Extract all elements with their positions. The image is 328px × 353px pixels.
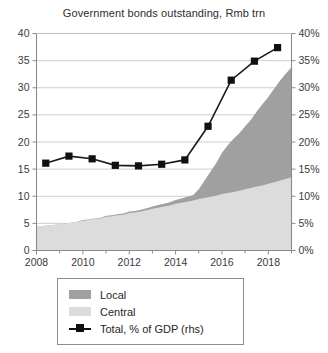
y-axis-tick-label: 10 xyxy=(18,190,30,202)
y2-axis-tick-label: 0% xyxy=(299,244,314,256)
x-axis-tick-label: 2010 xyxy=(71,256,95,268)
y-axis-tick-label: 40 xyxy=(18,27,30,39)
area-series-central xyxy=(37,177,292,250)
legend-item-label: Local xyxy=(100,289,126,301)
y2-axis-tick-label: 30% xyxy=(299,81,320,93)
y2-axis-tick-label: 40% xyxy=(299,27,320,39)
y-axis-tick-label: 15 xyxy=(18,163,30,175)
chart-figure: Government bonds outstanding, Rmb trn 00… xyxy=(0,0,328,353)
chart-legend: LocalCentralTotal, % of GDP (rhs) xyxy=(57,278,244,345)
y2-axis-tick-label: 25% xyxy=(299,108,320,120)
legend-color-swatch xyxy=(69,290,91,299)
legend-item[interactable]: Local xyxy=(69,286,233,303)
legend-color-swatch xyxy=(69,307,91,316)
line-series-marker xyxy=(181,156,188,163)
line-series-marker xyxy=(228,77,235,84)
line-series-marker xyxy=(204,123,211,130)
y-axis-tick-label: 25 xyxy=(18,108,30,120)
x-axis-tick-label: 2014 xyxy=(164,256,188,268)
line-series-marker xyxy=(42,160,49,167)
y2-axis-tick-label: 5% xyxy=(299,217,314,229)
line-series-marker xyxy=(274,44,281,51)
y-axis-tick-label: 5 xyxy=(24,217,30,229)
line-series-marker xyxy=(158,161,165,168)
y-axis-tick-label: 20 xyxy=(18,136,30,148)
y2-axis-tick-label: 20% xyxy=(299,136,320,148)
legend-item-label: Central xyxy=(100,306,135,318)
legend-item-label: Total, % of GDP (rhs) xyxy=(100,323,204,335)
legend-line-marker-key xyxy=(69,323,91,334)
line-series-marker xyxy=(251,58,258,65)
y-axis-tick-label: 0 xyxy=(24,244,30,256)
legend-item[interactable]: Central xyxy=(69,303,233,320)
x-axis-tick-label: 2012 xyxy=(118,256,142,268)
legend-square-marker-icon xyxy=(76,324,84,332)
legend-item[interactable]: Total, % of GDP (rhs) xyxy=(69,320,233,337)
line-series-marker xyxy=(65,153,72,160)
line-series-marker xyxy=(89,155,96,162)
y2-axis-tick-label: 35% xyxy=(299,54,320,66)
line-series-marker xyxy=(135,162,142,169)
x-axis-tick-label: 2008 xyxy=(25,256,49,268)
y-axis-tick-label: 35 xyxy=(18,54,30,66)
x-axis-tick-label: 2016 xyxy=(210,256,234,268)
y-axis-tick-label: 30 xyxy=(18,81,30,93)
y2-axis-tick-label: 15% xyxy=(299,163,320,175)
y2-axis-tick-label: 10% xyxy=(299,190,320,202)
line-series-marker xyxy=(112,162,119,169)
x-axis-tick-label: 2018 xyxy=(257,256,281,268)
